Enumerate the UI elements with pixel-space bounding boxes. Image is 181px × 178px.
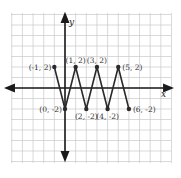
point-label: (2, -2) (75, 112, 98, 121)
x-axis-label: x (161, 89, 166, 99)
point-label: (3, 2) (87, 56, 107, 65)
point-label: (1, 2) (66, 56, 86, 65)
point-label: (-1, 2) (29, 63, 52, 72)
data-point (127, 107, 131, 111)
axes: x y (6, 14, 172, 160)
data-point (63, 107, 67, 111)
zigzag-graph: x y (-1, 2)(0, -2)(1, 2)(2, -2)(3, 2)(4,… (0, 0, 181, 178)
point-label: (6, -2) (133, 105, 156, 114)
point-label: (5, 2) (122, 63, 142, 72)
data-point (73, 65, 77, 69)
data-point (52, 65, 56, 69)
point-label: (4, -2) (96, 112, 119, 121)
y-axis-label: y (68, 17, 75, 27)
point-label: (0, -2) (39, 105, 62, 114)
data-point (84, 107, 88, 111)
data-point (116, 65, 120, 69)
data-point (105, 107, 109, 111)
data-point (95, 65, 99, 69)
